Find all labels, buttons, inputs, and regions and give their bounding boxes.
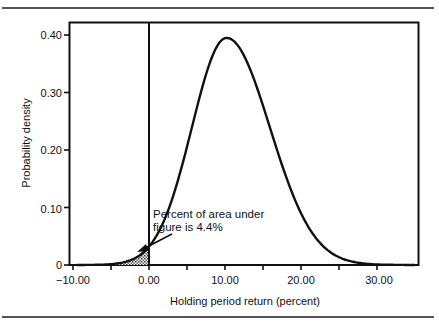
y-axis-title: Probability density bbox=[20, 98, 32, 188]
annotation-line-2: figure is 4.4% bbox=[153, 221, 223, 233]
x-tick-label: −10.00 bbox=[56, 274, 90, 286]
y-tick-label: 0.40 bbox=[41, 29, 62, 41]
annotation-line-1: Percent of area under bbox=[153, 208, 264, 220]
annotation-arrowhead-icon bbox=[137, 244, 148, 252]
x-axis-title: Holding period return (percent) bbox=[170, 295, 320, 307]
plot-frame bbox=[70, 23, 419, 266]
x-tick-label: 10.00 bbox=[211, 274, 239, 286]
y-tick-label: 0.20 bbox=[41, 144, 62, 156]
chart: −10.00 0.00 10.00 20.00 30.00 0 0.10 0.2… bbox=[0, 0, 439, 326]
y-tick-label: 0.10 bbox=[41, 203, 62, 215]
y-tick-label: 0 bbox=[56, 259, 62, 271]
x-tick-label: 0.00 bbox=[138, 274, 159, 286]
y-tick-label: 0.30 bbox=[41, 87, 62, 99]
x-tick-label: 30.00 bbox=[365, 274, 393, 286]
density-curve bbox=[77, 38, 415, 265]
x-tick-label: 20.00 bbox=[287, 274, 315, 286]
